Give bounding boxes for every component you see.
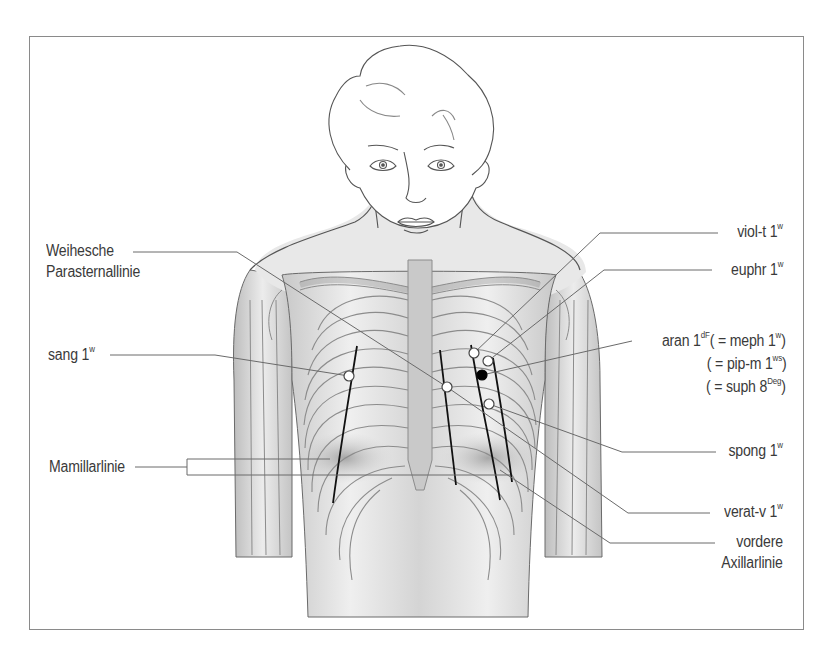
label-viol-t-text: viol-t 1 xyxy=(737,223,777,240)
label-sang-text: sang 1 xyxy=(48,346,89,363)
label-parasternallinie: Parasternallinie xyxy=(46,262,140,282)
label-suph-close: ) xyxy=(781,378,786,395)
label-pip-m-close: ) xyxy=(781,355,786,372)
torso-illustration xyxy=(0,0,828,651)
label-sang-sup: w xyxy=(89,344,95,354)
label-mamillarlinie-text: Mamillarlinie xyxy=(49,458,125,475)
point-euphr xyxy=(483,356,493,366)
label-spong-text: spong 1 xyxy=(729,442,778,459)
label-meph-close: ) xyxy=(781,332,786,349)
point-aran xyxy=(477,370,487,380)
label-vordere: vordere xyxy=(736,532,783,552)
label-mamillarlinie: Mamillarlinie xyxy=(49,457,125,477)
label-aran-sup: dF xyxy=(701,330,710,340)
left-arm xyxy=(234,270,292,557)
right-arm xyxy=(545,270,602,557)
label-verat-v-text: verat-v 1 xyxy=(724,503,777,520)
label-spong-sup: w xyxy=(777,440,783,450)
label-euphr-sup: w xyxy=(777,259,783,269)
label-viol-t: viol-t 1w xyxy=(737,222,783,242)
label-vordere-line1: vordere xyxy=(736,533,783,550)
torso xyxy=(250,188,586,617)
label-euphr-text: euphr 1 xyxy=(731,261,778,278)
label-pip-m-sup: ws xyxy=(772,353,781,363)
point-spong xyxy=(484,399,494,409)
label-spong: spong 1w xyxy=(729,441,783,461)
label-viol-t-sup: w xyxy=(777,221,783,231)
label-suph-text: ( = suph 8 xyxy=(706,378,767,395)
label-verat-v-sup: w xyxy=(777,501,783,511)
label-pip-m-text: ( = pip-m 1 xyxy=(706,355,772,372)
label-sang: sang 1w xyxy=(48,345,95,365)
label-weihesche-line2: Parasternallinie xyxy=(46,263,140,280)
label-meph-text: ( = meph 1 xyxy=(710,332,776,349)
label-vordere-line2: Axillarlinie xyxy=(722,554,783,571)
label-suph-sup: Deg xyxy=(767,376,781,386)
label-aran: aran 1dF( = meph 1w) xyxy=(662,331,786,351)
label-meph-sup: w xyxy=(776,330,782,340)
point-verat-v xyxy=(442,382,452,392)
label-verat-v: verat-v 1w xyxy=(724,502,783,522)
label-euphr: euphr 1w xyxy=(731,260,783,280)
label-suph: ( = suph 8Deg) xyxy=(706,377,786,397)
point-sang xyxy=(344,371,354,381)
label-aran-text: aran 1 xyxy=(662,332,701,349)
label-pip-m: ( = pip-m 1ws) xyxy=(706,354,786,374)
diagram-canvas: Weihesche Parasternallinie sang 1w Mamil… xyxy=(0,0,828,651)
label-axillarlinie: Axillarlinie xyxy=(722,553,783,573)
point-viol-t xyxy=(469,348,479,358)
label-weihesche-line1: Weihesche xyxy=(46,242,114,259)
label-weihesche: Weihesche xyxy=(46,241,114,261)
